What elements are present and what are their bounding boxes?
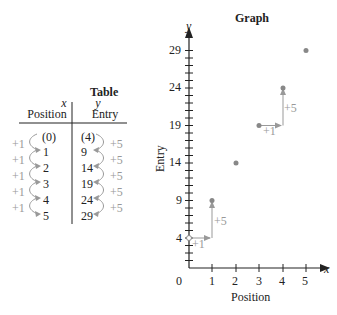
graph-plot xyxy=(0,0,337,315)
